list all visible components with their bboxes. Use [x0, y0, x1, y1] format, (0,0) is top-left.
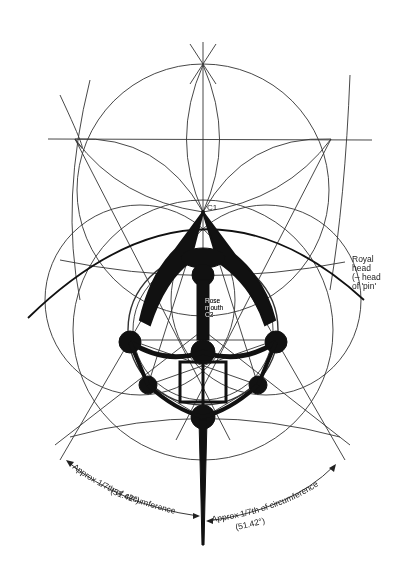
royal-head-line-4: of 'pin': [352, 282, 412, 291]
rose-mouth-label: Rose mouth C3: [205, 297, 223, 318]
pin-shaft: [199, 420, 207, 545]
geometric-construction-diagram: Approx 1/7th of circumference (51.42°) A…: [0, 0, 412, 571]
rose-mouth-line-3: C3: [205, 311, 223, 318]
royal-head-label: Royal head (– head of 'pin': [352, 255, 412, 291]
rose-mouth-line-1: Rose: [205, 297, 223, 304]
arc: [72, 80, 90, 300]
arc: [330, 75, 350, 290]
right-arc-label: Approx 1/7th of circumference: [211, 479, 320, 524]
rose-mouth-line-2: mouth: [205, 304, 223, 311]
c1-label: C1: [207, 203, 217, 212]
left-arc-angle: (51.42°): [109, 486, 141, 506]
left-arc-label: Approx 1/7th of circumference: [71, 462, 177, 516]
c1-point: [201, 210, 205, 214]
arc: [60, 95, 82, 148]
left-arrow-head-bottom: [193, 513, 200, 519]
brooch: [119, 212, 287, 545]
lower-diagonal: [276, 340, 345, 460]
right-arrow-head-top: [329, 464, 336, 472]
lower-diagonal: [60, 340, 130, 460]
